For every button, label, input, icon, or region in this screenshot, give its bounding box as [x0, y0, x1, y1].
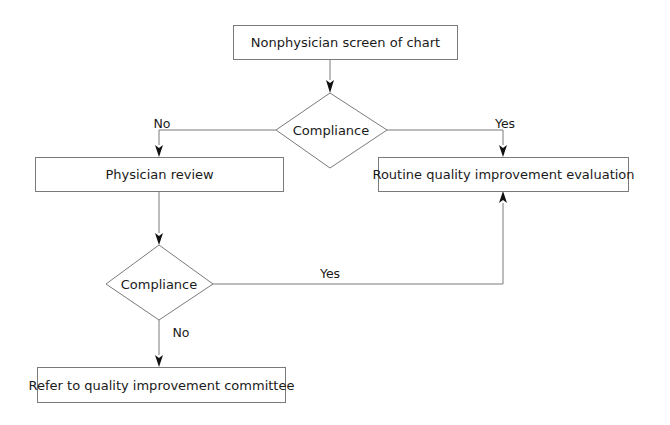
flowchart-connectors — [0, 0, 670, 425]
arrowhead-down-icon — [155, 145, 163, 157]
node-nonphysician-screen: Nonphysician screen of chart — [233, 25, 458, 60]
node-label: Refer to quality improvement committee — [29, 378, 295, 393]
edge-start-to-decision1 — [326, 59, 334, 93]
node-label: Nonphysician screen of chart — [251, 35, 440, 50]
edge-label-decision1-no: No — [154, 116, 171, 131]
edge-review-to-decision2 — [155, 191, 163, 245]
decision1-label: Compliance — [293, 123, 370, 138]
edge-label-decision2-no: No — [173, 325, 190, 340]
edge-decision2-no — [155, 320, 163, 367]
arrowhead-down-icon — [155, 355, 163, 367]
edge-decision1-no — [155, 130, 276, 157]
arrowhead-down-icon — [155, 233, 163, 245]
arrowhead-down-icon — [499, 145, 507, 157]
edge-decision1-yes — [387, 130, 507, 157]
edge-decision2-yes — [213, 191, 507, 284]
arrowhead-up-icon — [499, 191, 507, 203]
node-label: Routine quality improvement evaluation — [372, 167, 634, 182]
node-label: Physician review — [105, 167, 213, 182]
decision2-label: Compliance — [121, 277, 198, 292]
edge-label-decision2-yes: Yes — [320, 266, 340, 281]
edge-label-decision1-yes: Yes — [495, 116, 515, 131]
arrowhead-down-icon — [326, 80, 334, 93]
node-physician-review: Physician review — [35, 157, 284, 192]
node-refer-qi-committee: Refer to quality improvement committee — [37, 367, 286, 403]
node-routine-qi-evaluation: Routine quality improvement evaluation — [378, 157, 629, 192]
